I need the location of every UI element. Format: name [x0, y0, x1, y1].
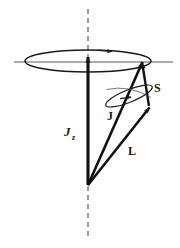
vector-diagram-canvas: J z J L S — [0, 0, 180, 248]
figure-background — [0, 0, 180, 248]
label-jz: J — [63, 124, 71, 139]
vector-diagram-figure: J z J L S — [0, 0, 180, 248]
label-j: J — [107, 109, 113, 123]
label-s: S — [154, 81, 161, 95]
label-l: L — [128, 144, 136, 158]
